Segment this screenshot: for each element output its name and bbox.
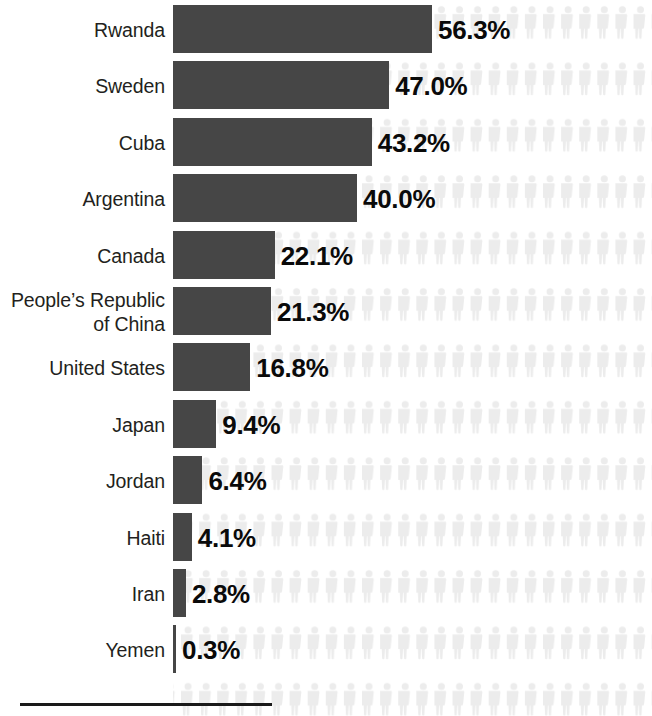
bar-value-label: 21.3%	[277, 299, 349, 325]
bar	[173, 625, 176, 673]
bar-value-label: 6.4%	[208, 468, 266, 494]
bar-value-label: 22.1%	[281, 243, 353, 269]
row-category-label: Haiti	[5, 526, 165, 550]
bar	[173, 400, 216, 448]
row-category-label: Yemen	[5, 638, 165, 662]
bar	[173, 231, 275, 279]
bar-value-label: 4.1%	[198, 525, 256, 551]
row-category-label: Canada	[5, 244, 165, 268]
bar-value-label: 56.3%	[438, 17, 510, 43]
chart-row: Yemen0.3%	[0, 625, 652, 673]
chart-row: Rwanda56.3%	[0, 5, 652, 53]
bar-value-label: 43.2%	[378, 130, 450, 156]
axis-rule	[20, 703, 272, 706]
row-category-label: Iran	[5, 582, 165, 606]
bar-value-label: 9.4%	[222, 412, 280, 438]
chart-row: Sweden47.0%	[0, 61, 652, 109]
row-category-label: Rwanda	[5, 18, 165, 42]
bar	[173, 5, 432, 53]
chart-rows: Rwanda56.3%Sweden47.0%Cuba43.2%Argentina…	[0, 0, 652, 716]
bar	[173, 61, 389, 109]
bar	[173, 174, 357, 222]
chart-row: Canada22.1%	[0, 231, 652, 279]
bar	[173, 287, 271, 335]
row-category-label: United States	[5, 356, 165, 380]
row-category-label: Cuba	[5, 131, 165, 155]
bar	[173, 456, 202, 504]
chart-row: Haiti4.1%	[0, 513, 652, 561]
bar-value-label: 16.8%	[256, 355, 328, 381]
chart-row: People’s Republic of China21.3%	[0, 287, 652, 335]
chart-row: Iran2.8%	[0, 569, 652, 617]
row-category-label: Argentina	[5, 187, 165, 211]
row-category-label: People’s Republic of China	[5, 288, 165, 336]
row-category-label: Japan	[5, 413, 165, 437]
chart-row: Cuba43.2%	[0, 118, 652, 166]
bar	[173, 569, 186, 617]
row-category-label: Sweden	[5, 74, 165, 98]
row-category-label: Jordan	[5, 469, 165, 493]
bar-chart: Rwanda56.3%Sweden47.0%Cuba43.2%Argentina…	[0, 0, 652, 716]
bar	[173, 513, 192, 561]
chart-row: United States16.8%	[0, 343, 652, 391]
bar-value-label: 40.0%	[363, 186, 435, 212]
bar	[173, 118, 372, 166]
chart-row: Japan9.4%	[0, 400, 652, 448]
bar-value-label: 0.3%	[182, 637, 240, 663]
chart-row: Argentina40.0%	[0, 174, 652, 222]
bar-value-label: 47.0%	[395, 73, 467, 99]
bar-value-label: 2.8%	[192, 581, 250, 607]
chart-row: Jordan6.4%	[0, 456, 652, 504]
bar	[173, 343, 250, 391]
